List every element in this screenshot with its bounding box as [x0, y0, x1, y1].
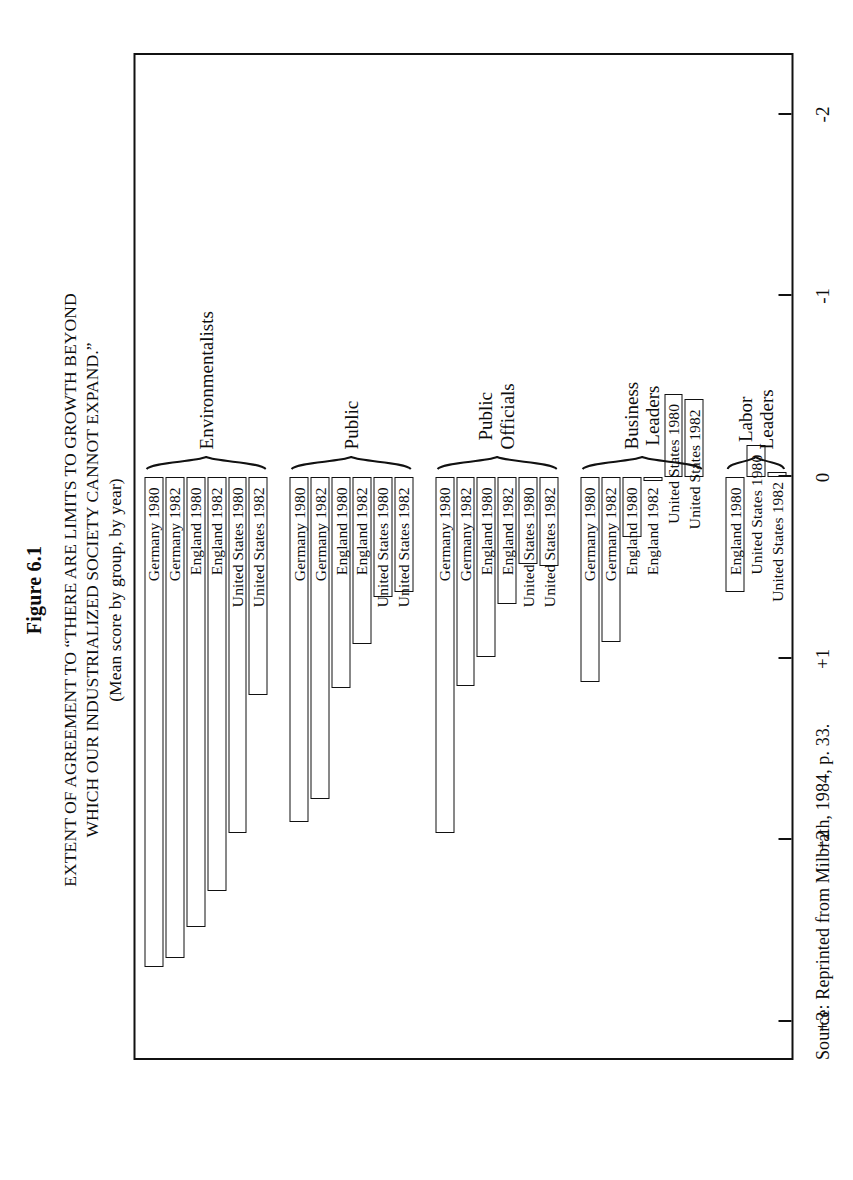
axis-tick-2 — [778, 657, 791, 659]
group-brace — [290, 455, 411, 471]
bar-label: United States 1982 — [541, 487, 557, 607]
bar: England 1980 — [476, 477, 495, 657]
bar: Germany 1982 — [310, 477, 329, 798]
bar: United States 1982 — [248, 477, 267, 695]
figure-number: Figure 6.1 — [22, 0, 45, 1180]
source-note: Source: Reprinted from Milbrath, 1984, p… — [812, 724, 833, 1060]
bar: Germany 1980 — [289, 477, 308, 822]
bar-label: England 1982 — [499, 487, 515, 575]
group-name: Environmentalists — [195, 311, 216, 449]
bar-label: England 1980 — [333, 487, 349, 575]
axis-tick-4 — [778, 294, 791, 296]
bar-label: United States 1982 — [395, 487, 411, 607]
bar-label: England 1980 — [187, 487, 203, 575]
bar-label: England 1980 — [727, 487, 743, 575]
figure-subtitle: (Mean score by group, by year) — [103, 0, 125, 1180]
chart-plot-area: Germany 1980Germany 1982England 1980Engl… — [133, 53, 793, 1060]
bar: England 1980 — [622, 477, 641, 537]
axis-tick-0 — [778, 1020, 791, 1022]
axis-tick-1 — [778, 838, 791, 840]
group-name: Public — [340, 401, 361, 450]
bar-label: United States 1982 — [769, 482, 785, 602]
bar-label: United States 1980 — [520, 487, 536, 607]
axis-tick-5 — [778, 113, 791, 115]
bar-label: Germany 1980 — [291, 487, 307, 581]
axis-tick-number: -1 — [812, 288, 831, 304]
group-brace — [436, 455, 557, 471]
bar: Germany 1980 — [435, 477, 454, 833]
bar: United States 1982 — [539, 477, 558, 566]
bar-label: Germany 1982 — [603, 487, 619, 581]
group-name: PublicOfficials — [475, 383, 518, 449]
bar-label: England 1980 — [478, 487, 494, 575]
bar: England 1982 — [207, 477, 226, 891]
bar: England 1982 — [497, 477, 516, 604]
axis-tick-number: +1 — [812, 649, 831, 669]
group-brace — [581, 455, 702, 471]
group-brace — [145, 455, 266, 471]
bar: United States 1982 — [394, 477, 413, 591]
bar-label: England 1980 — [623, 487, 639, 575]
axis-tick-number: 0 — [812, 473, 831, 483]
figure-title-line1: EXTENT OF AGREEMENT TO “THERE ARE LIMITS… — [59, 293, 79, 886]
bar-label: Germany 1982 — [167, 487, 183, 581]
bar-label: Germany 1980 — [582, 487, 598, 581]
bar-label: Germany 1982 — [312, 487, 328, 581]
axis-tick-number: -2 — [812, 107, 831, 123]
bar: Germany 1980 — [580, 477, 599, 682]
bar: United States 1980 — [228, 477, 247, 833]
bar: Germany 1982 — [165, 477, 184, 958]
bar: England 1980 — [725, 477, 744, 591]
bar-label: United States 1980 — [375, 487, 391, 607]
bar: Germany 1980 — [144, 477, 163, 967]
bar-label: United States 1980 — [748, 455, 764, 575]
bar: England 1982 — [643, 477, 662, 481]
bar: Germany 1982 — [456, 477, 475, 686]
bar: Germany 1982 — [601, 477, 620, 642]
group-name: BusinessLeaders — [620, 382, 663, 450]
bar: United States 1980 — [518, 477, 537, 564]
bar-label: England 1982 — [208, 487, 224, 575]
bar-label: England 1982 — [644, 487, 660, 575]
bar-label: United States 1980 — [229, 487, 245, 607]
axis-tick-3 — [778, 475, 791, 477]
figure-page: Figure 6.1 EXTENT OF AGREEMENT TO “THERE… — [0, 0, 853, 1180]
bar-label: England 1982 — [354, 487, 370, 575]
bar: United States 1980 — [373, 477, 392, 597]
bar: England 1982 — [352, 477, 371, 644]
figure-title-line2: WHICH OUR INDUSTRIALIZED SOCIETY CANNOT … — [81, 342, 101, 837]
bar-label: Germany 1982 — [457, 487, 473, 581]
bar-label: Germany 1980 — [146, 487, 162, 581]
bar-label: United States 1982 — [250, 487, 266, 607]
group-brace — [726, 455, 785, 471]
group-name: LaborLeaders — [734, 389, 777, 449]
bar: England 1980 — [186, 477, 205, 927]
bar: England 1980 — [331, 477, 350, 687]
figure-title: EXTENT OF AGREEMENT TO “THERE ARE LIMITS… — [58, 0, 125, 1180]
rotated-figure-stage: Figure 6.1 EXTENT OF AGREEMENT TO “THERE… — [0, 0, 853, 1180]
bar-label: Germany 1980 — [436, 487, 452, 581]
